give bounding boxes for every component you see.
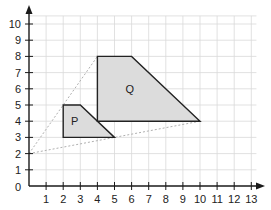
y-tick-label: 1 xyxy=(15,164,21,176)
shape-label-q: Q xyxy=(126,83,135,95)
y-tick-label: 7 xyxy=(15,67,21,79)
y-tick-label: 3 xyxy=(15,131,21,143)
y-tick-label: 8 xyxy=(15,50,21,62)
x-tick-label: 1 xyxy=(43,193,49,205)
x-tick-label: 3 xyxy=(77,193,83,205)
x-tick-label: 4 xyxy=(94,193,100,205)
y-tick-label: 6 xyxy=(15,83,21,95)
y-tick-label: 2 xyxy=(15,148,21,160)
x-tick-label: 7 xyxy=(146,193,152,205)
x-tick-label: 9 xyxy=(180,193,186,205)
x-tick-label: 10 xyxy=(194,193,206,205)
x-tick-label: 5 xyxy=(111,193,117,205)
x-axis-arrow-icon xyxy=(256,183,265,190)
x-tick-label: 2 xyxy=(60,193,66,205)
y-axis-arrow-icon xyxy=(26,5,33,14)
x-tick-label: 8 xyxy=(163,193,169,205)
x-tick-label: 12 xyxy=(228,193,240,205)
y-tick-label: 0 xyxy=(15,181,21,193)
coordinate-grid-diagram: PQ 12345678910111213012345678910 xyxy=(0,0,271,210)
x-tick-label: 11 xyxy=(211,193,222,205)
y-tick-label: 10 xyxy=(9,18,21,30)
y-tick-label: 5 xyxy=(15,99,21,111)
y-tick-label: 4 xyxy=(15,115,21,127)
shape-label-p: P xyxy=(71,115,78,127)
x-tick-label: 6 xyxy=(129,193,135,205)
y-tick-label: 9 xyxy=(15,34,21,46)
x-tick-label: 13 xyxy=(245,193,257,205)
